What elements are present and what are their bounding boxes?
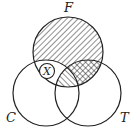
x-marker-label: X [42, 65, 52, 78]
label-c: C [6, 110, 16, 125]
label-f: F [63, 0, 74, 15]
venn-diagram: X F C T [0, 0, 139, 134]
x-marker: X [40, 64, 55, 79]
label-t: T [120, 110, 130, 125]
